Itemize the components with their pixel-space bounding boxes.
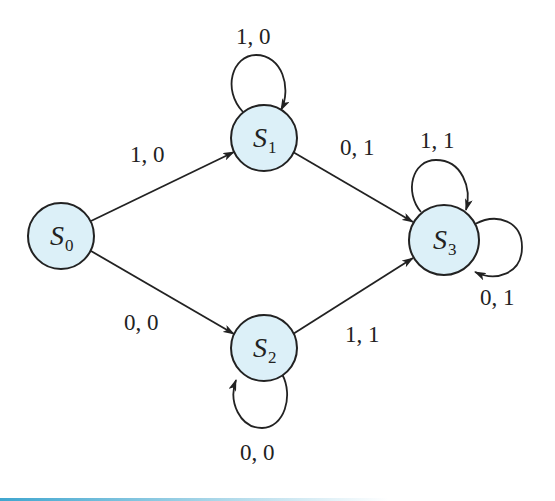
- loop-s1: [232, 55, 286, 112]
- label-s3-loop-right: 0, 1: [480, 285, 515, 310]
- label-s3-loop-top: 1, 1: [420, 128, 455, 153]
- state-s3: S3: [409, 205, 479, 275]
- loop-s3-top: [412, 160, 468, 212]
- label-s1-loop: 1, 0: [236, 24, 271, 49]
- edge-s1-s3: [293, 152, 413, 222]
- state-diagram: S0 S1 S2 S3 1, 0 1, 0 0, 1 1, 1 0, 0 1, …: [0, 0, 555, 501]
- state-s0: S0: [28, 203, 94, 269]
- state-s2: S2: [231, 315, 297, 381]
- loop-s3-right: [475, 219, 522, 276]
- loop-s2: [234, 374, 288, 428]
- edge-s0-s2: [91, 251, 234, 334]
- label-s0-s2: 0, 0: [124, 310, 159, 335]
- label-s2-s3: 1, 1: [345, 322, 380, 347]
- label-s2-loop: 0, 0: [240, 440, 275, 465]
- state-s1: S1: [231, 105, 297, 171]
- label-s0-s1: 1, 0: [130, 142, 165, 167]
- label-s1-s3: 0, 1: [340, 135, 375, 160]
